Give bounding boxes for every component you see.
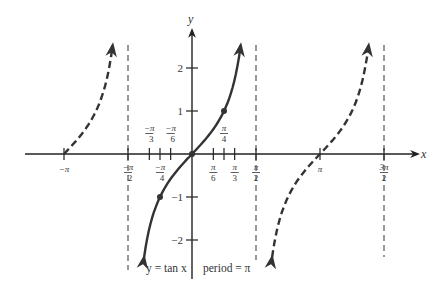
svg-text:π: π [254,162,259,172]
x-tick-label: −π3 [144,123,155,144]
y-tick-label: 1 [178,105,184,117]
x-tick-label: −π4 [155,162,166,183]
x-tick-label: 3π2 [378,162,389,183]
tan-left-branch [64,45,113,154]
x-tick-label: −π6 [165,123,176,144]
svg-text:3π: 3π [378,162,389,172]
x-tick-label: π2 [252,162,260,183]
svg-text:π: π [211,162,216,172]
svg-text:−π: −π [144,123,155,133]
svg-text:6: 6 [170,134,175,144]
svg-text:π: π [232,162,237,172]
svg-text:2: 2 [382,173,387,183]
svg-text:−π: −π [59,164,70,174]
x-tick-label: π4 [220,123,228,144]
svg-text:−π: −π [165,123,176,133]
x-tick-label: −π [59,164,70,174]
y-axis-label: y [187,12,194,26]
y-tick-label: 2 [178,62,184,74]
svg-text:π: π [318,164,323,174]
curve-point [157,194,163,200]
svg-text:6: 6 [211,173,216,183]
function-label: y = tan x [146,262,187,275]
x-tick-label: −π2 [123,162,134,183]
x-tick-label: π3 [231,162,239,183]
svg-text:−π: −π [123,162,134,172]
y-tick-label: −1 [171,191,183,203]
svg-text:3: 3 [149,134,154,144]
svg-text:2: 2 [128,173,133,183]
x-axis-label: x [420,147,427,161]
y-tick-label: −2 [171,234,183,246]
svg-text:4: 4 [160,173,165,183]
x-tick-label: π [318,164,323,174]
tan-graph: x y 21−1−2 −π−π2−π3−π4−π6π6π4π3π2π3π2 y … [0,0,447,291]
svg-text:3: 3 [232,173,237,183]
svg-text:π: π [222,123,227,133]
curve-point [189,151,195,157]
svg-text:−π: −π [155,162,166,172]
period-label: period = π [203,262,251,275]
x-tick-label: π6 [209,162,217,183]
svg-text:4: 4 [222,134,227,144]
svg-text:2: 2 [254,173,259,183]
curve-point [221,108,227,114]
